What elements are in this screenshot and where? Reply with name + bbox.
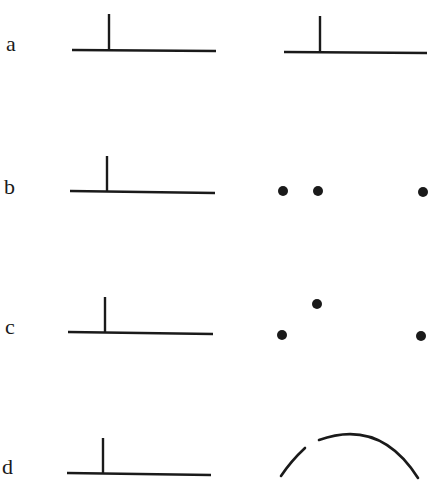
row-a-left-baseline bbox=[72, 50, 216, 51]
row-a-right-baseline bbox=[284, 52, 427, 53]
row-c-right-dot-1 bbox=[277, 330, 287, 340]
row-d-left-baseline bbox=[67, 473, 211, 475]
row-d-right-arc-segment-1 bbox=[281, 448, 305, 476]
row-c-right-dot-3 bbox=[416, 331, 426, 341]
row-b-right-dot-2 bbox=[313, 186, 323, 196]
figure-canvas bbox=[0, 0, 431, 486]
row-c-left-baseline bbox=[68, 332, 213, 334]
row-c-right-dot-2 bbox=[312, 299, 322, 309]
row-b-right-dot-3 bbox=[418, 187, 428, 197]
row-d-right-arc-segment-2 bbox=[319, 434, 418, 478]
row-b-right-dot-1 bbox=[278, 186, 288, 196]
row-b-left-baseline bbox=[70, 191, 215, 193]
